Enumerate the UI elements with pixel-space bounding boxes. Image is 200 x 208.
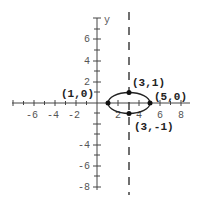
y-tick-label: -8: [78, 182, 90, 193]
point-label-left: (1,0): [61, 88, 94, 100]
y-tick-label: 2: [84, 77, 90, 88]
y-tick-label: -6: [78, 161, 90, 172]
point-left: [106, 101, 111, 106]
y-tick-label: -4: [78, 140, 90, 151]
x-tick-label: 8: [178, 110, 184, 121]
x-tick-label: -2: [68, 110, 80, 121]
x-tick-label: -4: [47, 110, 59, 121]
point-right: [148, 101, 153, 106]
x-tick-label: -6: [26, 110, 38, 121]
y-tick-label: 6: [84, 34, 90, 45]
y-axis-label: y: [104, 15, 110, 26]
y-tick-label: 4: [84, 56, 90, 67]
point-label-bottom: (3,-1): [134, 121, 174, 133]
point-bottom: [127, 111, 132, 116]
x-tick-label: 6: [157, 110, 163, 121]
point-label-top: (3,1): [132, 77, 165, 89]
graph: y -6 -4 -2 2 4 6 8 6 4 2 -4 -6 -8 (1,0) …: [0, 0, 200, 208]
point-label-right: (5,0): [154, 91, 187, 103]
point-top: [127, 90, 132, 95]
